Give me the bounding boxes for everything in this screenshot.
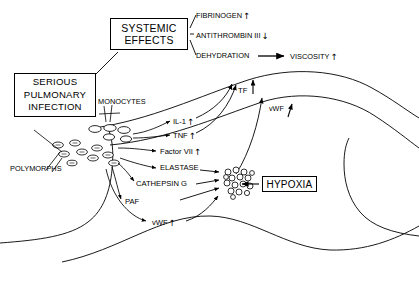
diagram-vector-layer — [0, 0, 419, 300]
vessel-wall-bottom — [62, 216, 419, 262]
systemic-effects-line-2: EFFECTS — [124, 34, 173, 47]
tnf-text: TNF — [173, 131, 188, 140]
vwf-increase-arrow — [288, 104, 292, 117]
il-1-change-arrow: ↑ — [186, 118, 194, 127]
factor-vii-text: Factor VII — [160, 147, 193, 156]
vwf-platelet-text: vWF — [152, 218, 168, 227]
box-hypoxia[interactable]: HYPOXIA — [262, 176, 317, 192]
tnf-change-arrow: ↑ — [188, 132, 196, 141]
label-viscosity: VISCOSITY↑ — [290, 52, 338, 61]
hypoxia-label: HYPOXIA — [267, 179, 313, 190]
label-monocytes: MONOCYTES — [98, 98, 146, 105]
platelet-aggregate — [224, 167, 255, 199]
label-factor-vii: Factor VII↑ — [160, 147, 201, 156]
il-1-text: IL-1 — [173, 117, 186, 126]
elastase-text: ELASTASE — [160, 163, 199, 172]
cathepsin-g-text: CATHEPSIN G — [136, 179, 187, 188]
factor-vii-change-arrow: ↑ — [193, 148, 201, 157]
label-cathepsin-g: CATHEPSIN G — [136, 180, 187, 188]
serious-infection-line-3: INFECTION — [28, 101, 82, 114]
label-antithrombin-iii: ANTITHROMBIN III↓ — [196, 31, 269, 40]
diagram-canvas: SYSTEMIC EFFECTS SERIOUS PULMONARY INFEC… — [0, 0, 419, 300]
vwf-endothelial-text: vWF — [269, 104, 284, 113]
vessel-wall-mid — [110, 96, 419, 148]
label-tnf: TNF↑ — [173, 131, 196, 140]
antithrombin-change-arrow: ↓ — [260, 32, 268, 41]
label-fibrinogen: FIBRINOGEN↑ — [196, 11, 250, 20]
paf-text: PAF — [125, 197, 139, 206]
polymorphs-text: POLYMORPHS — [10, 164, 62, 173]
label-polymorphs: POLYMORPHS — [10, 165, 62, 172]
label-dehydration: DEHYDRATION — [196, 52, 249, 59]
label-tissue-factor: TF — [238, 87, 247, 95]
viscosity-change-arrow: ↑ — [329, 53, 337, 62]
monocytes-leader-line — [99, 105, 120, 122]
label-vwf-endothelial: vWF — [269, 105, 284, 112]
fibrinogen-text: FIBRINOGEN — [196, 11, 242, 20]
fibrinogen-change-arrow: ↑ — [242, 12, 250, 21]
aggregate-input-arrows — [180, 170, 219, 221]
tissue-factor-text: TF — [238, 86, 247, 95]
vwf-platelet-change-arrow: ↑ — [168, 219, 176, 228]
box-serious-pulmonary-infection[interactable]: SERIOUS PULMONARY INFECTION — [14, 73, 96, 117]
systemic-effects-line-1: SYSTEMIC — [121, 22, 176, 35]
box-systemic-effects[interactable]: SYSTEMIC EFFECTS — [110, 18, 188, 50]
monocyte-mediator-arrows — [133, 121, 170, 138]
viscosity-text: VISCOSITY — [290, 52, 329, 61]
serious-infection-line-1: SERIOUS — [33, 76, 78, 89]
label-paf: PAF — [125, 198, 139, 206]
label-vwf-platelet: vWF↑ — [152, 218, 176, 227]
label-il-1: IL-1↑ — [173, 117, 194, 126]
monocytes-text: MONOCYTES — [98, 97, 146, 106]
label-elastase: ELASTASE — [160, 164, 199, 172]
dehydration-text: DEHYDRATION — [196, 51, 249, 60]
antithrombin-text: ANTITHROMBIN III — [196, 31, 260, 40]
vessel-wall-right-lower — [344, 138, 419, 236]
polymorph-cells — [53, 140, 120, 166]
serious-infection-line-2: PULMONARY — [24, 89, 86, 102]
